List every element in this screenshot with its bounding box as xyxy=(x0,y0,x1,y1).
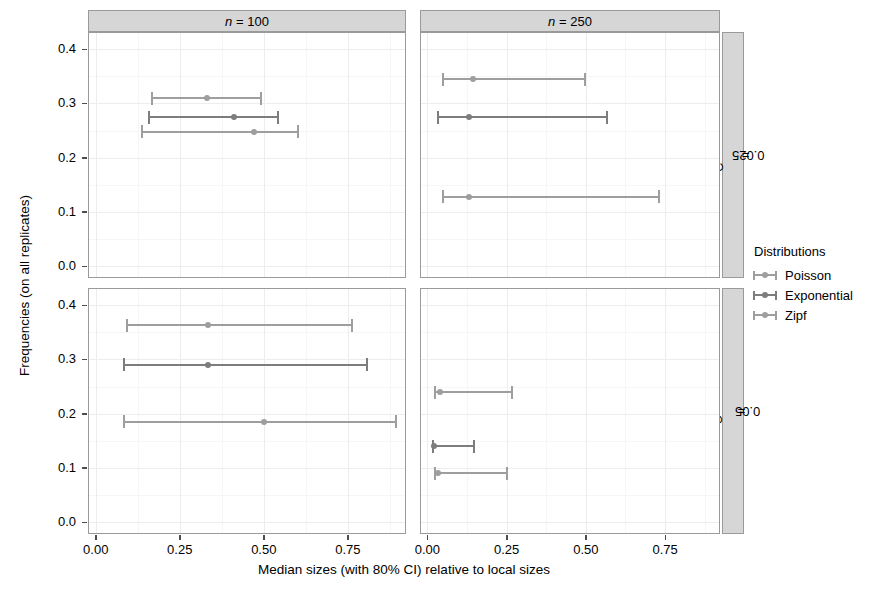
gridline-major-vertical xyxy=(180,33,181,277)
panel-n250-c005 xyxy=(420,288,720,534)
x-tick-label: 0.75 xyxy=(635,542,695,557)
median-point xyxy=(437,389,443,395)
y-tick-label: 0.4 xyxy=(32,297,76,312)
y-tick-mark xyxy=(82,359,87,361)
gridline-minor-horizontal xyxy=(421,332,719,333)
strip-val: 250 xyxy=(570,14,592,29)
error-bar-cap-high xyxy=(606,111,608,124)
error-bar-cap-low xyxy=(442,190,444,203)
legend-item-poisson[interactable]: Poisson xyxy=(752,265,886,285)
gridline-major-vertical xyxy=(427,289,428,533)
median-point xyxy=(466,194,472,200)
legend-item-label: Zipf xyxy=(785,308,807,323)
error-bar-exponential xyxy=(437,109,608,125)
error-bar-line xyxy=(148,116,279,118)
gridline-minor-horizontal xyxy=(421,239,719,240)
gridline-minor-horizontal xyxy=(89,441,405,442)
median-point xyxy=(466,114,472,120)
strip-val: 0.025 xyxy=(732,148,765,163)
strip-row-c-005: C = 0.05 xyxy=(722,288,744,534)
x-axis-title: Median sizes (with 80% CI) relative to l… xyxy=(88,562,720,577)
x-tick-label: 0.00 xyxy=(397,542,457,557)
y-tick-label: 0.1 xyxy=(32,460,76,475)
x-tick-mark xyxy=(665,535,667,540)
gridline-major-horizontal xyxy=(421,266,719,267)
median-point xyxy=(261,419,267,425)
gridline-major-horizontal xyxy=(89,49,405,50)
error-bar-cap-high xyxy=(260,92,262,105)
error-bar-cap-high xyxy=(395,415,397,428)
error-bar-zipf xyxy=(141,124,299,140)
error-bar-line xyxy=(432,445,475,447)
gridline-major-horizontal xyxy=(421,49,719,50)
y-tick-label: 0.0 xyxy=(32,258,76,273)
error-bar-exponential xyxy=(432,438,475,454)
error-bar-cap-low xyxy=(123,415,125,428)
gridline-major-vertical xyxy=(96,289,97,533)
error-bar-line xyxy=(434,472,509,474)
panel-n250-c0025 xyxy=(420,32,720,278)
median-point xyxy=(205,322,211,328)
legend-item-exponential[interactable]: Exponential xyxy=(752,285,886,305)
median-point xyxy=(470,76,476,82)
gridline-major-vertical xyxy=(507,33,508,277)
gridline-minor-horizontal xyxy=(421,131,719,132)
x-tick-label: 0.25 xyxy=(477,542,537,557)
error-bar-cap-low xyxy=(123,358,125,371)
error-bar-zipf xyxy=(123,414,397,430)
gridline-major-horizontal xyxy=(89,266,405,267)
error-bar-line xyxy=(123,364,368,366)
gridline-major-vertical xyxy=(665,33,666,277)
y-tick-label: 0.4 xyxy=(32,41,76,56)
error-bar-cap-high xyxy=(277,111,279,124)
error-bar-cap-high xyxy=(506,467,508,480)
legend-key-icon xyxy=(752,306,778,324)
error-bar-cap-high xyxy=(658,190,660,203)
y-tick-label: 0.3 xyxy=(32,351,76,366)
x-tick-label: 0.00 xyxy=(66,542,126,557)
error-bar-cap-high xyxy=(473,440,475,453)
error-bar-line xyxy=(442,78,586,80)
gridline-major-horizontal xyxy=(89,305,405,306)
gridline-minor-horizontal xyxy=(89,387,405,388)
gridline-minor-vertical xyxy=(705,33,706,277)
error-bar-line xyxy=(126,324,353,326)
strip-row-c-0025: C = 0.025 xyxy=(722,32,744,278)
strip-eq: = xyxy=(555,14,570,29)
gridline-minor-vertical xyxy=(467,33,468,277)
gridline-minor-vertical xyxy=(222,33,223,277)
legend: Distributions PoissonExponentialZipf xyxy=(752,244,886,325)
gridline-minor-horizontal xyxy=(89,495,405,496)
strip-val: 0.05 xyxy=(735,404,760,419)
error-bar-cap-high xyxy=(297,125,299,138)
error-bar-line xyxy=(123,421,397,423)
y-tick-mark xyxy=(82,413,87,415)
gridline-major-horizontal xyxy=(89,522,405,523)
error-bar-cap-low xyxy=(141,125,143,138)
gridline-minor-vertical xyxy=(546,33,547,277)
x-tick-mark xyxy=(179,535,181,540)
gridline-major-vertical xyxy=(507,289,508,533)
gridline-minor-vertical xyxy=(546,289,547,533)
y-tick-label: 0.2 xyxy=(32,150,76,165)
x-tick-label: 0.75 xyxy=(318,542,378,557)
x-tick-mark xyxy=(506,535,508,540)
gridline-major-vertical xyxy=(586,289,587,533)
legend-item-zipf[interactable]: Zipf xyxy=(752,305,886,325)
y-tick-mark xyxy=(82,211,87,213)
error-bar-cap-high xyxy=(351,319,353,332)
gridline-major-vertical xyxy=(427,33,428,277)
error-bar-cap-low xyxy=(437,111,439,124)
x-tick-mark xyxy=(95,535,97,540)
error-bar-line xyxy=(442,196,661,198)
gridline-minor-vertical xyxy=(705,289,706,533)
gridline-minor-vertical xyxy=(390,289,391,533)
y-tick-mark xyxy=(82,266,87,268)
error-bar-cap-high xyxy=(511,386,513,399)
gridline-major-horizontal xyxy=(89,212,405,213)
gridline-minor-vertical xyxy=(138,33,139,277)
error-bar-cap-low xyxy=(148,111,150,124)
error-bar-cap-low xyxy=(151,92,153,105)
error-bar-cap-low xyxy=(126,319,128,332)
gridline-minor-vertical xyxy=(625,33,626,277)
